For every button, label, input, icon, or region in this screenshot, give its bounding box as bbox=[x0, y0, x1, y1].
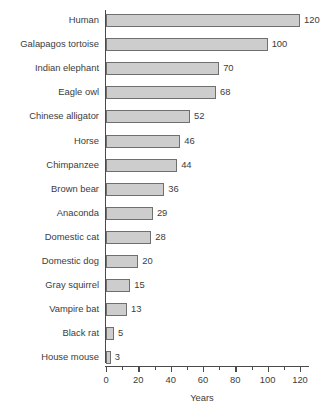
bar-row: Eagle owl68 bbox=[0, 86, 334, 99]
bar-value-label: 46 bbox=[184, 134, 194, 148]
x-axis-major-tick bbox=[300, 367, 301, 372]
bar-category-label: Black rat bbox=[0, 326, 99, 340]
bar-row: Vampire bat13 bbox=[0, 303, 334, 316]
bar-value-label: 52 bbox=[194, 109, 204, 123]
bar-value-label: 3 bbox=[115, 350, 120, 364]
x-axis-title-label: Years bbox=[190, 392, 214, 404]
bar-category-label: Human bbox=[0, 13, 99, 27]
x-axis-tick-label: 120 bbox=[280, 374, 320, 386]
bar bbox=[106, 327, 114, 340]
bar bbox=[106, 38, 268, 51]
bar-category-label: Indian elephant bbox=[0, 61, 99, 75]
x-axis-major-tick bbox=[203, 367, 204, 372]
bar bbox=[106, 110, 190, 123]
bar-category-label: Domestic dog bbox=[0, 254, 99, 268]
x-axis-line bbox=[105, 366, 309, 367]
x-axis-minor-tick bbox=[219, 367, 220, 370]
bar bbox=[106, 86, 216, 99]
bar-value-label: 29 bbox=[157, 206, 167, 220]
bar bbox=[106, 62, 219, 75]
bar bbox=[106, 183, 164, 196]
bar-row: Human120 bbox=[0, 14, 334, 27]
bar-value-label: 68 bbox=[220, 85, 230, 99]
x-axis-major-tick bbox=[138, 367, 139, 372]
bar-row: House mouse3 bbox=[0, 351, 334, 364]
bar-category-label: Eagle owl bbox=[0, 85, 99, 99]
bar-value-label: 20 bbox=[142, 254, 152, 268]
bar-value-label: 13 bbox=[131, 302, 141, 316]
x-axis-title: Years bbox=[0, 392, 334, 404]
bar-value-label: 120 bbox=[304, 13, 320, 27]
bar bbox=[106, 351, 111, 364]
bar-row: Domestic cat28 bbox=[0, 231, 334, 244]
bar-category-label: Chimpanzee bbox=[0, 158, 99, 172]
bar-category-label: House mouse bbox=[0, 350, 99, 364]
bar-category-label: Anaconda bbox=[0, 206, 99, 220]
bar-row: Gray squirrel15 bbox=[0, 279, 334, 292]
bar bbox=[106, 255, 138, 268]
bar bbox=[106, 279, 130, 292]
bar-value-label: 100 bbox=[272, 37, 288, 51]
bar-value-label: 5 bbox=[118, 326, 123, 340]
bar-category-label: Vampire bat bbox=[0, 302, 99, 316]
bar-value-label: 44 bbox=[181, 158, 191, 172]
bar-category-label: Brown bear bbox=[0, 182, 99, 196]
y-axis-line bbox=[105, 10, 106, 363]
bar-row: Chinese alligator52 bbox=[0, 110, 334, 123]
bar-value-label: 28 bbox=[155, 230, 165, 244]
bar-row: Anaconda29 bbox=[0, 207, 334, 220]
bar-row: Chimpanzee44 bbox=[0, 159, 334, 172]
x-axis-major-tick bbox=[235, 367, 236, 372]
bar bbox=[106, 14, 300, 27]
bar-category-label: Horse bbox=[0, 134, 99, 148]
bar-row: Galapagos tortoise100 bbox=[0, 38, 334, 51]
bar-value-label: 70 bbox=[223, 61, 233, 75]
bar-chart: Human120Galapagos tortoise100Indian elep… bbox=[0, 0, 334, 414]
x-axis-minor-tick bbox=[122, 367, 123, 370]
bar-category-label: Chinese alligator bbox=[0, 109, 99, 123]
bar bbox=[106, 159, 177, 172]
bar bbox=[106, 303, 127, 316]
bar bbox=[106, 231, 151, 244]
bar-category-label: Galapagos tortoise bbox=[0, 37, 99, 51]
x-axis-major-tick bbox=[171, 367, 172, 372]
bar-category-label: Domestic cat bbox=[0, 230, 99, 244]
x-axis-minor-tick bbox=[284, 367, 285, 370]
bars-container: Human120Galapagos tortoise100Indian elep… bbox=[0, 0, 334, 362]
bar-row: Domestic dog20 bbox=[0, 255, 334, 268]
x-axis-minor-tick bbox=[155, 367, 156, 370]
bar-row: Black rat5 bbox=[0, 327, 334, 340]
bar-row: Indian elephant70 bbox=[0, 62, 334, 75]
bar bbox=[106, 135, 180, 148]
x-axis-minor-tick bbox=[187, 367, 188, 370]
bar-value-label: 15 bbox=[134, 278, 144, 292]
bar-category-label: Gray squirrel bbox=[0, 278, 99, 292]
bar bbox=[106, 207, 153, 220]
bar-row: Brown bear36 bbox=[0, 183, 334, 196]
x-axis-major-tick bbox=[268, 367, 269, 372]
bar-row: Horse46 bbox=[0, 135, 334, 148]
bar-value-label: 36 bbox=[168, 182, 178, 196]
x-axis-minor-tick bbox=[252, 367, 253, 370]
x-axis-major-tick bbox=[106, 367, 107, 372]
